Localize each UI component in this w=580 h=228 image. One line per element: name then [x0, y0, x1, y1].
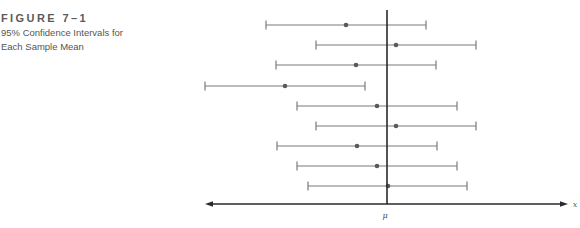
confidence-interval-chart: μ x — [0, 0, 580, 228]
sample-mean-dot — [354, 63, 359, 68]
confidence-interval-4 — [205, 82, 365, 91]
confidence-interval-6 — [316, 122, 476, 131]
sample-mean-dot — [394, 43, 399, 48]
confidence-interval-7 — [277, 142, 437, 151]
confidence-interval-8 — [297, 162, 457, 171]
x-axis-label: x — [573, 200, 578, 209]
confidence-interval-2 — [316, 41, 476, 50]
left-arrow-icon — [205, 201, 213, 207]
sample-mean-dot — [394, 124, 399, 129]
intervals-group — [205, 21, 476, 191]
sample-mean-dot — [375, 104, 380, 109]
sample-mean-dot — [283, 84, 288, 89]
sample-mean-dot — [344, 23, 349, 28]
right-arrow-icon — [560, 201, 568, 207]
sample-mean-dot — [355, 144, 360, 149]
confidence-interval-1 — [266, 21, 426, 30]
confidence-interval-5 — [297, 102, 457, 111]
sample-mean-dot — [375, 164, 380, 169]
confidence-interval-3 — [276, 61, 436, 70]
mu-label: μ — [382, 211, 387, 220]
